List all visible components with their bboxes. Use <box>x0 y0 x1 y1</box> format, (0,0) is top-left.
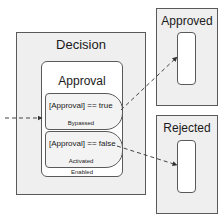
rejected-title: Rejected <box>157 121 217 135</box>
approved-state[interactable]: Approved <box>156 8 218 106</box>
approval-substate[interactable]: Approval [Approval] == true Bypassed [Ap… <box>41 61 123 177</box>
transition-status: Bypassed <box>46 120 116 126</box>
transition-approval-false[interactable]: [Approval] == false Activated <box>45 131 123 168</box>
rejected-entry-node <box>177 140 196 193</box>
decision-title: Decision <box>17 37 145 52</box>
approved-title: Approved <box>157 14 217 28</box>
rejected-state[interactable]: Rejected <box>156 115 218 214</box>
transition-condition: [Approval] == false <box>49 139 116 148</box>
transition-status: Activated <box>46 158 116 164</box>
approved-entry-node <box>177 32 196 85</box>
approval-title: Approval <box>42 74 122 88</box>
approval-enabled-label: Enabled <box>42 169 122 175</box>
transition-condition: [Approval] == true <box>49 101 113 110</box>
transition-approval-true[interactable]: [Approval] == true Bypassed <box>45 93 123 130</box>
